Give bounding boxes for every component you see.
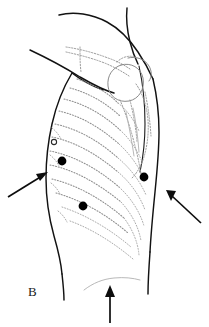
costal-crease: [84, 278, 140, 290]
pectoral-border: [30, 50, 114, 93]
humeral-head: [108, 64, 144, 101]
figure-panel-b: B: [0, 0, 209, 327]
marker-dot-lower-left: [79, 202, 88, 211]
shoulder-girdle-group: [66, 47, 151, 178]
marker-ring-left-edge: [51, 139, 56, 144]
arrow-bottom: [105, 285, 115, 323]
anatomical-illustration: [0, 0, 209, 327]
arrow-left: [8, 172, 48, 197]
sternum: [80, 47, 81, 72]
neck-contour: [127, 8, 138, 64]
rib-5: [55, 124, 118, 158]
body-outline-group: [30, 8, 159, 300]
posterior-stroke-3: [51, 183, 60, 194]
rib-4: [59, 111, 119, 144]
flank-lower-contour: [62, 274, 64, 300]
arrow-left-shaft: [8, 176, 42, 197]
marker-dot-right: [140, 173, 149, 182]
costal-arc-2: [120, 130, 143, 164]
rib-1: [77, 79, 118, 103]
marker-dot-upper-left: [58, 157, 67, 166]
arrow-right: [166, 190, 201, 223]
costal-arc-1: [118, 103, 139, 131]
costal-margin: [121, 202, 141, 241]
rib-12: [70, 221, 133, 259]
lateral-chest-contour: [46, 73, 72, 274]
arrow-bottom-head: [105, 285, 115, 297]
costal-margin-lower: [124, 218, 139, 255]
abdomen-right-contour: [148, 252, 150, 294]
costal-arc-6: [119, 187, 144, 226]
arm-outer-contour: [150, 79, 159, 252]
arrow-right-shaft: [172, 196, 201, 223]
axilla-shading-2: [126, 112, 134, 156]
clavicle-inferior-border: [66, 52, 129, 76]
rib-9: [52, 179, 124, 218]
panel-label: B: [28, 284, 37, 300]
axilla-contour: [139, 66, 145, 172]
rib-8: [50, 165, 121, 202]
posterior-stroke-4: [58, 211, 67, 222]
